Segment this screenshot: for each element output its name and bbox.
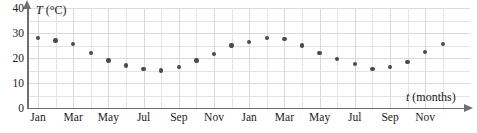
x-axis-tick-label: Nov: [204, 112, 224, 124]
data-point: [159, 68, 163, 72]
temperature-scatter-chart: 010203040 JanMarMayJulSepNovJanMarMayJul…: [0, 0, 477, 133]
x-axis-tick-label: Mar: [64, 112, 83, 124]
data-point: [247, 40, 251, 44]
y-axis-tick-label: 0: [0, 103, 24, 115]
x-axis-tick-label: Sep: [381, 112, 398, 124]
data-point: [141, 67, 145, 71]
y-axis-title-unit: (°C): [43, 3, 67, 17]
y-axis-tick-label: 20: [0, 53, 24, 65]
data-point: [229, 43, 233, 47]
y-axis-tick-label: 10: [0, 78, 24, 90]
data-point: [53, 38, 57, 42]
data-point: [388, 65, 392, 69]
y-axis-tick-label: 40: [0, 3, 24, 15]
data-point: [71, 42, 75, 46]
data-point: [212, 52, 216, 56]
plot-area: [27, 8, 470, 108]
x-axis-tick-label: Jan: [30, 112, 45, 124]
data-point: [265, 36, 269, 40]
y-axis-tick-labels: 010203040: [0, 0, 24, 133]
y-axis-arrowhead-icon: [23, 0, 31, 9]
data-point: [423, 50, 427, 54]
x-axis-title: t (months): [406, 90, 456, 105]
x-axis-tick-label: Jan: [242, 112, 257, 124]
data-point-series: [27, 8, 470, 108]
x-axis-tick-label: Jul: [137, 112, 150, 124]
data-point: [317, 51, 321, 55]
data-point: [300, 43, 304, 47]
y-axis-title-symbol: T: [36, 3, 43, 17]
x-axis-line: [27, 108, 465, 110]
y-axis-tick-label: 30: [0, 28, 24, 40]
x-axis-title-unit: (months): [409, 90, 455, 104]
data-point: [194, 58, 198, 62]
x-axis-tick-label: Jul: [348, 112, 361, 124]
data-point: [177, 65, 181, 69]
x-axis-tick-label: May: [98, 112, 119, 124]
data-point: [405, 60, 409, 64]
x-axis-tick-label: May: [309, 112, 330, 124]
data-point: [89, 51, 93, 55]
y-axis-title: T (°C): [36, 3, 66, 18]
x-axis-arrowhead-icon: [464, 104, 473, 112]
x-axis-tick-label: Nov: [415, 112, 435, 124]
y-axis-line: [27, 6, 29, 109]
data-point: [353, 62, 357, 66]
data-point: [124, 63, 128, 67]
x-axis-tick-label: Sep: [170, 112, 187, 124]
data-point: [335, 57, 339, 61]
data-point: [106, 58, 110, 62]
data-point: [370, 67, 374, 71]
data-point: [36, 36, 40, 40]
x-axis-tick-label: Mar: [275, 112, 294, 124]
data-point: [441, 42, 445, 46]
data-point: [282, 37, 286, 41]
